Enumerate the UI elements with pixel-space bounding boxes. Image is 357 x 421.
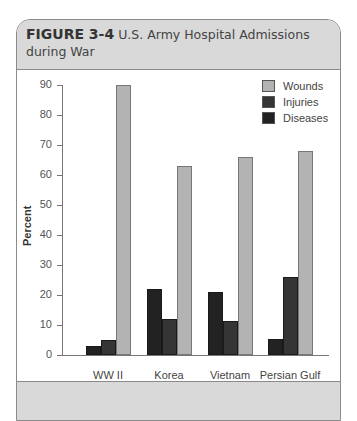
figure-label: FIGURE 3-4	[26, 26, 114, 42]
bar-diseases	[86, 346, 101, 355]
bar-diseases	[268, 339, 283, 356]
bar-wounds	[116, 85, 131, 355]
legend-swatch	[262, 96, 275, 108]
y-tick-mark	[57, 145, 62, 146]
bar-diseases	[147, 289, 162, 355]
y-tick-mark	[57, 175, 62, 176]
bar-chart: 0102030405060708090PercentWW IIKoreaViet…	[17, 71, 340, 381]
y-axis-line	[62, 85, 63, 355]
y-tick-mark	[57, 115, 62, 116]
figure-header: FIGURE 3-4U.S. Army Hospital Admissions …	[17, 20, 340, 70]
figure-panel: FIGURE 3-4U.S. Army Hospital Admissions …	[16, 19, 341, 421]
figure-caption	[17, 381, 340, 421]
legend-item-injuries: Injuries	[262, 96, 318, 108]
bar-wounds	[177, 166, 192, 355]
bar-wounds	[298, 151, 313, 355]
bar-diseases	[208, 292, 223, 355]
y-tick-mark	[57, 85, 62, 86]
x-tick-label: Persian Gulf	[250, 369, 330, 381]
bar-injuries	[101, 340, 116, 355]
y-tick-mark	[57, 355, 62, 356]
y-tick-label: 10	[30, 318, 52, 330]
y-tick-mark	[57, 205, 62, 206]
y-tick-label: 40	[30, 228, 52, 240]
bar-wounds	[238, 157, 253, 355]
y-tick-mark	[57, 235, 62, 236]
y-tick-mark	[57, 325, 62, 326]
legend-label: Wounds	[283, 80, 323, 92]
y-tick-label: 30	[30, 258, 52, 270]
legend-swatch	[262, 80, 275, 92]
y-tick-label: 20	[30, 288, 52, 300]
legend-item-wounds: Wounds	[262, 80, 323, 92]
legend-swatch	[262, 112, 275, 124]
y-tick-label: 60	[30, 168, 52, 180]
y-tick-label: 50	[30, 198, 52, 210]
y-tick-label: 0	[30, 348, 52, 360]
legend-item-diseases: Diseases	[262, 112, 328, 124]
x-axis-line	[57, 355, 329, 356]
bar-injuries	[223, 321, 238, 356]
y-tick-label: 90	[30, 78, 52, 90]
legend-label: Diseases	[283, 112, 328, 124]
y-tick-mark	[57, 265, 62, 266]
y-tick-label: 70	[30, 138, 52, 150]
y-axis-label: Percent	[21, 206, 33, 246]
bar-injuries	[283, 277, 298, 355]
bar-injuries	[162, 319, 177, 355]
legend-label: Injuries	[283, 96, 318, 108]
y-tick-mark	[57, 295, 62, 296]
y-tick-label: 80	[30, 108, 52, 120]
